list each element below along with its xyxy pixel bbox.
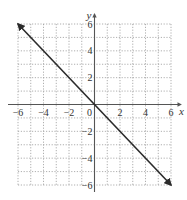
y-tick-label: −6: [82, 180, 93, 191]
x-tick-label: 4: [143, 107, 148, 118]
x-tick-label: 6: [169, 107, 174, 118]
y-tick-label: −4: [82, 153, 93, 164]
x-tick-label: −2: [64, 107, 75, 118]
x-axis-label: x: [178, 105, 184, 117]
y-tick-label: 2: [88, 72, 93, 83]
x-tick-label: 2: [118, 107, 123, 118]
y-tick-label: 4: [88, 45, 93, 56]
y-axis-label: y: [86, 9, 92, 21]
x-tick-label: −6: [13, 107, 24, 118]
x-tick-label: 0: [87, 107, 92, 118]
coordinate-plane: −6−4−20246−6−4−2246 x y: [0, 0, 187, 200]
x-tick-label: −4: [38, 107, 49, 118]
y-tick-label: −2: [82, 126, 93, 137]
